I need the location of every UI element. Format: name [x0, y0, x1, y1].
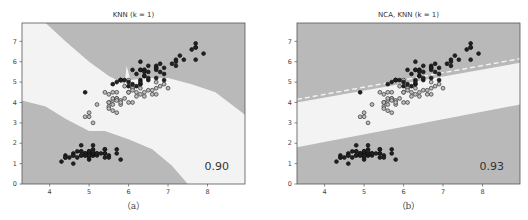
data-point-class-1: [362, 115, 366, 119]
data-point-class-0: [339, 156, 343, 160]
data-point-class-2: [119, 78, 123, 82]
data-point-class-1: [429, 80, 433, 84]
data-point-class-0: [75, 149, 79, 153]
data-point-class-2: [457, 58, 461, 62]
y-tick-label: 0: [13, 180, 17, 188]
data-point-class-2: [421, 70, 425, 74]
data-point-class-2: [194, 41, 198, 45]
data-point-class-1: [390, 99, 394, 103]
data-point-class-2: [410, 72, 414, 76]
y-tick-label: 5: [13, 78, 17, 86]
data-point-class-1: [107, 101, 111, 105]
data-point-class-2: [174, 60, 178, 64]
data-point-class-1: [386, 97, 390, 101]
y-axis: 01234567: [13, 38, 22, 189]
data-point-class-0: [366, 143, 370, 147]
data-point-class-2: [158, 62, 162, 66]
x-tick-label: 7: [441, 188, 445, 196]
data-point-class-0: [354, 154, 358, 158]
data-point-class-0: [71, 154, 75, 158]
data-point-class-2: [174, 64, 178, 68]
data-point-class-2: [139, 80, 143, 84]
data-point-class-2: [449, 64, 453, 68]
data-point-class-2: [398, 78, 402, 82]
panel-b: NCA, KNN (k = 1) 45678 01234567 0.93 （b）: [264, 0, 528, 220]
y-tick-label: 7: [13, 38, 17, 46]
y-tick-label: 3: [13, 119, 17, 127]
y-tick-label: 1: [13, 160, 17, 168]
data-point-class-2: [194, 58, 198, 62]
data-point-class-0: [374, 152, 378, 156]
data-point-class-2: [437, 78, 441, 82]
data-point-class-1: [119, 101, 123, 105]
data-point-class-0: [378, 156, 382, 160]
data-point-class-1: [382, 101, 386, 105]
x-tick-label: 5: [87, 188, 91, 196]
data-point-class-1: [390, 111, 394, 115]
y-tick-label: 7: [288, 38, 292, 46]
y-tick-label: 4: [13, 99, 17, 107]
data-point-class-1: [95, 103, 99, 107]
data-point-class-2: [469, 58, 473, 62]
data-point-class-0: [362, 149, 366, 153]
data-point-class-2: [139, 60, 143, 64]
x-tick-label: 6: [401, 188, 405, 196]
data-point-class-2: [417, 70, 421, 74]
data-point-class-1: [131, 88, 135, 92]
data-point-class-2: [421, 64, 425, 68]
data-point-class-1: [154, 86, 158, 90]
data-point-class-2: [146, 64, 150, 68]
data-point-class-2: [202, 52, 206, 56]
data-point-class-2: [429, 76, 433, 80]
data-point-class-0: [103, 147, 107, 151]
data-point-class-1: [150, 92, 154, 96]
data-point-class-0: [79, 149, 83, 153]
data-point-class-2: [158, 70, 162, 74]
data-point-class-0: [87, 154, 91, 158]
data-point-class-1: [103, 90, 107, 94]
data-point-class-2: [146, 70, 150, 74]
x-tick-label: 4: [323, 188, 327, 196]
data-point-class-2: [402, 80, 406, 84]
data-point-class-1: [386, 90, 390, 94]
data-point-class-2: [417, 74, 421, 78]
data-point-class-1: [410, 90, 414, 94]
data-point-class-2: [449, 60, 453, 64]
data-point-class-0: [87, 149, 91, 153]
data-point-class-0: [99, 152, 103, 156]
data-point-class-1: [406, 88, 410, 92]
data-point-class-1: [441, 86, 445, 90]
data-point-class-1: [398, 84, 402, 88]
data-point-class-0: [382, 156, 386, 160]
data-point-class-1: [146, 88, 150, 92]
y-tick-label: 4: [288, 99, 292, 107]
data-point-class-1: [127, 101, 131, 105]
data-point-class-0: [370, 152, 374, 156]
data-point-class-2: [154, 66, 158, 70]
data-point-class-2: [142, 70, 146, 74]
accuracy-score: 0.90: [205, 160, 230, 173]
data-point-class-0: [350, 149, 354, 153]
data-point-class-0: [119, 158, 123, 162]
data-point-class-0: [95, 152, 99, 156]
data-point-class-1: [414, 86, 418, 90]
data-point-class-0: [346, 154, 350, 158]
data-point-class-1: [166, 86, 170, 90]
data-point-class-1: [362, 111, 366, 115]
data-point-class-1: [115, 99, 119, 103]
data-point-class-2: [406, 82, 410, 86]
data-point-class-2: [146, 76, 150, 80]
data-point-class-2: [469, 41, 473, 45]
data-point-class-2: [154, 76, 158, 80]
x-tick-label: 8: [480, 188, 484, 196]
data-point-class-2: [123, 78, 127, 82]
figure-caption: （b）: [397, 201, 421, 211]
data-point-class-1: [154, 92, 158, 96]
data-point-class-2: [178, 54, 182, 58]
data-point-class-1: [386, 109, 390, 113]
data-point-class-0: [83, 154, 87, 158]
data-point-class-0: [354, 143, 358, 147]
data-point-class-0: [362, 154, 366, 158]
data-point-class-1: [358, 115, 362, 119]
data-point-class-0: [115, 152, 119, 156]
